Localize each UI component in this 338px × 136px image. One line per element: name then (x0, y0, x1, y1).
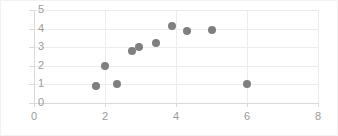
y-axis-tick-label: 3 (26, 41, 44, 52)
data-point[interactable] (135, 43, 143, 51)
x-axis-tick (318, 103, 319, 107)
data-point[interactable] (92, 82, 100, 90)
data-point[interactable] (243, 80, 251, 88)
data-point[interactable] (208, 26, 216, 34)
x-axis-tick (34, 103, 35, 107)
scatter-chart: 01234502468 (0, 0, 338, 136)
y-axis-tick-label: 1 (26, 78, 44, 89)
gridline-vertical (318, 10, 319, 103)
data-point[interactable] (113, 80, 121, 88)
x-axis-tick-label: 2 (95, 111, 115, 122)
y-axis-tick-label: 2 (26, 60, 44, 71)
gridline-vertical (176, 10, 177, 103)
plot-area (34, 10, 318, 103)
x-axis-tick-label: 4 (166, 111, 186, 122)
x-axis-tick-label: 0 (24, 111, 44, 122)
data-point[interactable] (101, 62, 109, 70)
y-axis-tick-label: 0 (26, 97, 44, 108)
x-axis-tick (105, 103, 106, 107)
y-axis-tick-label: 4 (26, 23, 44, 34)
gridline-vertical (105, 10, 106, 103)
x-axis-tick (247, 103, 248, 107)
y-axis-tick-label: 5 (26, 4, 44, 15)
x-axis-tick-label: 8 (308, 111, 328, 122)
x-axis-tick (176, 103, 177, 107)
gridline-vertical (247, 10, 248, 103)
x-axis-tick-label: 6 (237, 111, 257, 122)
data-point[interactable] (183, 27, 191, 35)
